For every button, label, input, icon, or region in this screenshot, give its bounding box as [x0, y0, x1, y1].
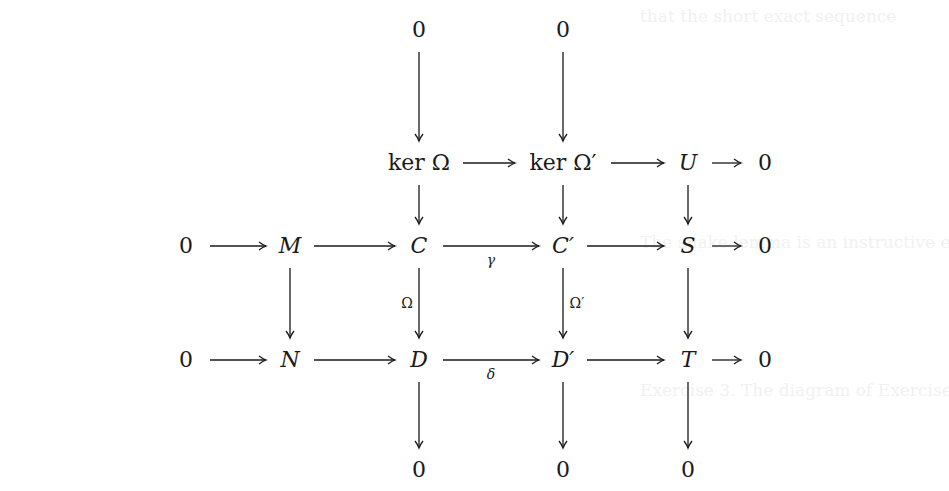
node-z_b1: 0 [412, 459, 426, 481]
arrow-S-to-T [684, 268, 692, 338]
node-N: N [280, 349, 299, 371]
arrow-kerO2-to-U [611, 159, 664, 167]
node-C2: C′ [552, 235, 574, 257]
arrow-label: Ω′ [570, 296, 585, 310]
arrow-D2-to-T [587, 356, 664, 364]
arrow-C2-to-D2 [559, 268, 567, 338]
node-z_b2: 0 [556, 459, 570, 481]
node-T: T [681, 349, 696, 371]
arrow-C2-to-S [587, 242, 664, 250]
node-z_l2: 0 [179, 235, 193, 257]
arrow-U-to-z_r1 [712, 159, 741, 167]
arrow-U-to-S [684, 185, 692, 224]
arrow-label: δ [487, 367, 495, 381]
node-D2: D′ [552, 349, 575, 371]
arrow-M-to-C [314, 242, 395, 250]
arrow-layer [0, 0, 949, 491]
arrow-label: Ω [401, 296, 413, 310]
arrow-z_top1-to-kerO [415, 52, 423, 141]
arrow-T-to-z_b3 [684, 382, 692, 448]
node-U: U [679, 152, 698, 174]
arrow-kerO-to-C [415, 185, 423, 224]
arrow-kerO-to-kerO2 [463, 159, 515, 167]
node-D: D [410, 349, 428, 371]
node-z_b3: 0 [681, 459, 695, 481]
node-S: S [680, 235, 695, 257]
node-C: C [411, 235, 428, 257]
arrow-z_l3-to-N [210, 356, 266, 364]
node-M: M [279, 235, 302, 257]
arrow-z_top2-to-kerO2 [559, 52, 567, 141]
arrow-label: γ [487, 253, 495, 267]
arrow-M-to-N [286, 268, 294, 338]
arrow-D-to-D2 [443, 356, 539, 364]
arrow-D-to-z_b1 [415, 382, 423, 448]
arrow-kerO2-to-C2 [559, 185, 567, 224]
node-z_top1: 0 [412, 19, 426, 41]
node-z_l3: 0 [179, 349, 193, 371]
arrow-S-to-z_r2 [712, 242, 741, 250]
node-kerO: ker Ω [388, 152, 450, 174]
arrow-z_l2-to-M [210, 242, 266, 250]
node-z_r1: 0 [758, 152, 772, 174]
node-z_r2: 0 [758, 235, 772, 257]
arrow-C-to-C2 [443, 242, 539, 250]
node-kerO2: ker Ω′ [529, 152, 596, 174]
node-z_r3: 0 [758, 349, 772, 371]
arrow-T-to-z_r3 [712, 356, 741, 364]
arrow-N-to-D [314, 356, 395, 364]
node-z_top2: 0 [556, 19, 570, 41]
arrow-D2-to-z_b2 [559, 382, 567, 448]
arrow-C-to-D [415, 268, 423, 338]
